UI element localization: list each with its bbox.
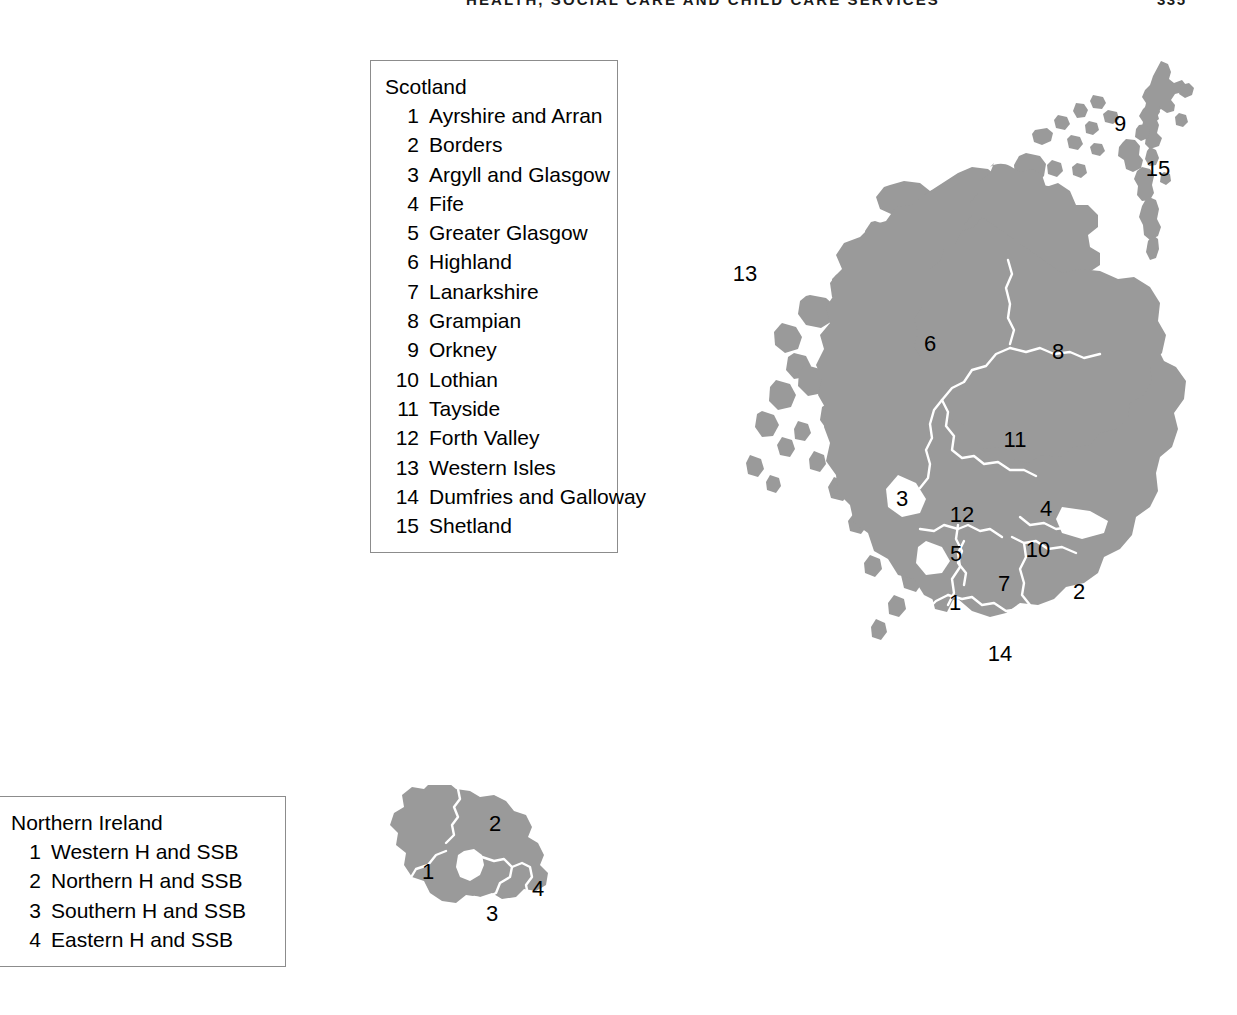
legend-item: 9Orkney (385, 335, 603, 364)
legend-item-label: Grampian (419, 306, 521, 335)
legend-item-label: Dumfries and Galloway (419, 482, 646, 511)
legend-item-label: Northern H and SSB (41, 866, 242, 895)
map-label-13: 13 (733, 261, 757, 286)
map-label-14: 14 (988, 641, 1012, 666)
legend-item-label: Highland (419, 247, 512, 276)
running-header-page-number: 335 (1157, 0, 1187, 8)
legend-item: 14Dumfries and Galloway (385, 482, 603, 511)
legend-item-number: 2 (11, 866, 41, 895)
legend-item-number: 6 (385, 247, 419, 276)
map-label-6: 6 (924, 331, 936, 356)
map-label-8: 8 (1052, 339, 1064, 364)
map-label-7: 7 (998, 571, 1010, 596)
legend-item-label: Western Isles (419, 453, 556, 482)
legend-scotland-list: 1Ayrshire and Arran2Borders3Argyll and G… (385, 101, 603, 540)
legend-item-label: Tayside (419, 394, 500, 423)
legend-item-label: Lanarkshire (419, 277, 539, 306)
legend-item-label: Fife (419, 189, 464, 218)
legend-item-number: 13 (385, 453, 419, 482)
legend-item-label: Shetland (419, 511, 512, 540)
legend-item-label: Ayrshire and Arran (419, 101, 603, 130)
legend-item-number: 12 (385, 423, 419, 452)
legend-northern-ireland-title: Northern Ireland (11, 808, 271, 837)
map-label-5: 5 (950, 541, 962, 566)
legend-scotland: Scotland 1Ayrshire and Arran2Borders3Arg… (370, 60, 618, 553)
legend-item: 4Fife (385, 189, 603, 218)
legend-item-number: 10 (385, 365, 419, 394)
legend-item: 10Lothian (385, 365, 603, 394)
legend-item: 12Forth Valley (385, 423, 603, 452)
legend-item: 2Borders (385, 130, 603, 159)
legend-item: 4Eastern H and SSB (11, 925, 271, 954)
running-header: HEALTH, SOCIAL CARE AND CHILD CARE SERVI… (0, 0, 1237, 9)
legend-item-label: Lothian (419, 365, 498, 394)
legend-northern-ireland: Northern Ireland 1Western H and SSB2Nort… (0, 796, 286, 967)
map-label-11: 11 (1004, 427, 1027, 452)
legend-item: 13Western Isles (385, 453, 603, 482)
map-label-9: 9 (1114, 111, 1126, 136)
legend-item-number: 1 (11, 837, 41, 866)
legend-item-number: 2 (385, 130, 419, 159)
legend-item-label: Southern H and SSB (41, 896, 246, 925)
legend-item-number: 4 (11, 925, 41, 954)
legend-item-number: 11 (385, 394, 419, 423)
legend-item-number: 1 (385, 101, 419, 130)
legend-item-number: 14 (385, 482, 419, 511)
legend-item-label: Eastern H and SSB (41, 925, 233, 954)
legend-item-number: 3 (385, 160, 419, 189)
legend-item-number: 9 (385, 335, 419, 364)
map-scotland: 15 9 (690, 55, 1227, 755)
legend-item: 3Argyll and Glasgow (385, 160, 603, 189)
legend-item-label: Greater Glasgow (419, 218, 588, 247)
legend-item-number: 7 (385, 277, 419, 306)
legend-item-number: 8 (385, 306, 419, 335)
legend-northern-ireland-list: 1Western H and SSB2Northern H and SSB3So… (11, 837, 271, 954)
map-label-15: 15 (1146, 156, 1170, 181)
page-canvas: HEALTH, SOCIAL CARE AND CHILD CARE SERVI… (0, 0, 1237, 1015)
legend-item-label: Argyll and Glasgow (419, 160, 610, 189)
northern-ireland-landmass (390, 785, 548, 903)
legend-item-number: 4 (385, 189, 419, 218)
map-label-3: 3 (896, 486, 908, 511)
legend-item: 7Lanarkshire (385, 277, 603, 306)
map-label-ni-3: 3 (486, 901, 498, 926)
map-label-ni-4: 4 (532, 876, 544, 901)
legend-item: 8Grampian (385, 306, 603, 335)
legend-item: 15Shetland (385, 511, 603, 540)
legend-item: 1Ayrshire and Arran (385, 101, 603, 130)
legend-item-label: Borders (419, 130, 503, 159)
legend-item: 11Tayside (385, 394, 603, 423)
legend-item-number: 3 (11, 896, 41, 925)
map-label-1: 1 (949, 590, 961, 615)
map-label-10: 10 (1026, 537, 1050, 562)
legend-scotland-title: Scotland (385, 72, 603, 101)
map-northern-ireland: 1 2 3 4 (360, 785, 570, 950)
legend-item-number: 5 (385, 218, 419, 247)
map-label-ni-2: 2 (489, 811, 501, 836)
map-label-4: 4 (1040, 496, 1052, 521)
legend-item: 2Northern H and SSB (11, 866, 271, 895)
legend-item-label: Western H and SSB (41, 837, 239, 866)
legend-item: 1Western H and SSB (11, 837, 271, 866)
map-label-2: 2 (1073, 579, 1085, 604)
legend-item: 5Greater Glasgow (385, 218, 603, 247)
legend-item: 6Highland (385, 247, 603, 276)
map-label-12: 12 (950, 502, 974, 527)
legend-item-number: 15 (385, 511, 419, 540)
running-header-title: HEALTH, SOCIAL CARE AND CHILD CARE SERVI… (466, 0, 940, 8)
map-label-ni-1: 1 (422, 859, 434, 884)
legend-item-label: Orkney (419, 335, 497, 364)
legend-item: 3Southern H and SSB (11, 896, 271, 925)
legend-item-label: Forth Valley (419, 423, 540, 452)
